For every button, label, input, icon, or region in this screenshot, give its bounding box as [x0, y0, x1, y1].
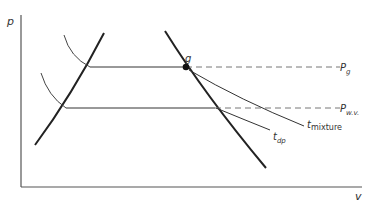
saturated-vapour-line: [165, 31, 266, 168]
pv-diagram: p v g Pg Pw.v. tmixture tdp: [0, 0, 374, 204]
t-mixture-label: tmixture: [307, 119, 342, 132]
pg-label: Pg: [340, 62, 351, 76]
t-mixture-isotherm: [189, 70, 304, 126]
isotherm-lower-liquid: [41, 73, 66, 108]
y-axis-label: p: [6, 15, 14, 28]
x-axis-label: v: [355, 190, 362, 203]
pwv-label: Pw.v.: [340, 103, 359, 117]
point-g-label: g: [185, 53, 191, 64]
saturated-liquid-line: [35, 33, 104, 145]
isotherm-upper-liquid: [64, 35, 90, 67]
point-g-marker: [183, 64, 190, 71]
t-dp-isotherm: [216, 108, 270, 130]
t-dp-label: tdp: [273, 131, 286, 145]
